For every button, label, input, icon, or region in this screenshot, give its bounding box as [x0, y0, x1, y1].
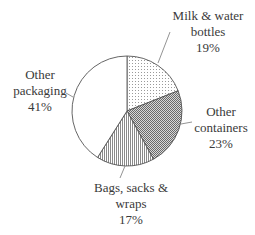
- label-milk-water-bottles: Milk & water bottles 19%: [162, 8, 254, 56]
- label-bags-sacks-wraps: Bags, sacks & wraps 17%: [86, 180, 176, 228]
- label-other-containers: Other containers 23%: [188, 104, 254, 152]
- pie-slices: [72, 56, 182, 166]
- label-other-packaging: Other packaging 41%: [8, 67, 72, 115]
- leader-line: [120, 166, 125, 178]
